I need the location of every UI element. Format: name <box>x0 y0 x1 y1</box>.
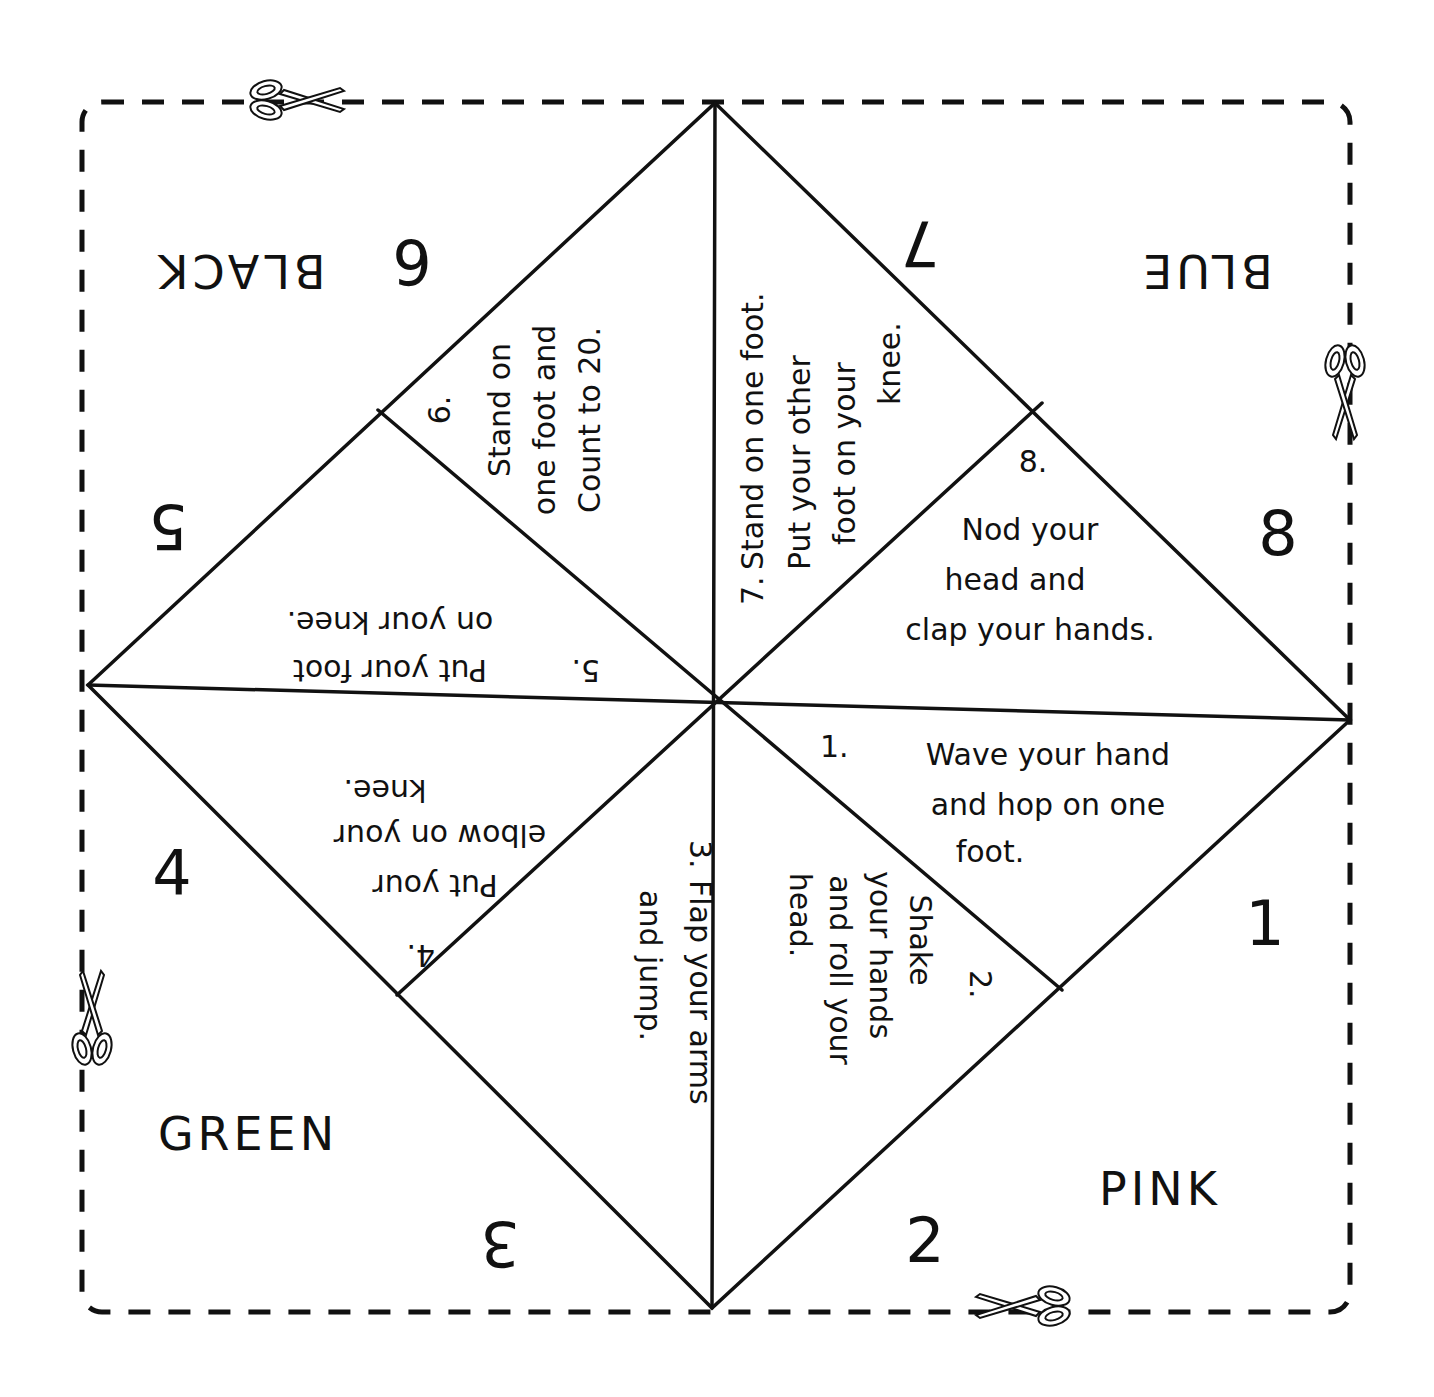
fortune-line: on your knee. <box>287 605 494 640</box>
fortune-number: 5. <box>571 653 600 688</box>
fortune-line: knee. <box>344 773 427 808</box>
fortune-6: 6. Stand on one foot and Count to 20. <box>422 325 607 515</box>
fortune-1: 1. Wave your hand and hop on one foot. <box>820 729 1170 869</box>
fortune-number: 2. <box>963 970 998 999</box>
fortune-line: head and <box>945 562 1086 597</box>
fortune-number: 8. <box>1019 444 1048 479</box>
fold-line-diag-b <box>397 403 1042 995</box>
fortune-5: 5. Put your foot on your knee. <box>287 605 600 688</box>
scissors-icon <box>69 971 115 1067</box>
fortune-line: Stand on <box>482 343 517 477</box>
fortune-number: 6. <box>422 396 457 425</box>
fortune-number: 4. <box>406 938 435 973</box>
fortune-number: 1. <box>820 729 849 764</box>
number-label-3: 3 <box>480 1207 519 1280</box>
fortune-line: and hop on one <box>931 787 1166 822</box>
fortune-line: and jump. <box>633 890 668 1041</box>
fold-line-horizontal <box>88 685 1350 720</box>
fortune-line: and roll your <box>823 875 858 1065</box>
fortune-line: Put your foot <box>293 653 487 688</box>
fortune-2: 2. Shake your hands and roll your head. <box>783 871 998 1066</box>
fortune-line: knee. <box>872 322 907 405</box>
number-label-5: 5 <box>148 490 187 563</box>
color-label-pink: PINK <box>1099 1162 1221 1216</box>
number-label-2: 2 <box>905 1204 944 1277</box>
fortune-number: 3. <box>683 840 718 869</box>
fortune-line: foot. <box>956 834 1025 869</box>
fortune-line: elbow on your <box>333 818 546 853</box>
fortune-line: Flap your arms <box>683 880 718 1105</box>
fortune-line: Nod your <box>962 512 1099 547</box>
number-label-1: 1 <box>1245 887 1284 960</box>
fortune-line: Count to 20. <box>572 327 607 513</box>
number-label-8: 8 <box>1258 497 1297 570</box>
number-label-7: 7 <box>900 207 939 280</box>
fortune-line: clap your hands. <box>905 612 1154 647</box>
fortune-line: Put your <box>372 868 498 903</box>
scissors-icon <box>976 1283 1072 1329</box>
fortune-line: Stand on one foot. <box>735 292 770 570</box>
color-label-black: BLACK <box>154 244 325 298</box>
fortune-line: Wave your hand <box>926 737 1170 772</box>
fortune-line: foot on your <box>827 361 862 545</box>
color-label-green: GREEN <box>158 1107 338 1161</box>
scissors-icon <box>248 77 344 123</box>
fortune-number: 7. <box>735 576 770 605</box>
fortune-line: head. <box>783 873 818 957</box>
scissors-icon <box>1322 343 1368 439</box>
fortune-7: 7. Stand on one foot. Put your other foo… <box>735 292 907 605</box>
fortune-4: 4. Put your elbow on your knee. <box>333 773 546 973</box>
number-label-4: 4 <box>152 837 191 910</box>
color-label-blue: BLUE <box>1139 244 1273 298</box>
fortune-line: Shake <box>903 894 938 985</box>
fortune-line: one foot and <box>527 325 562 515</box>
fortune-line: Put your other <box>782 355 817 570</box>
fortune-8: 8. Nod your head and clap your hands. <box>905 444 1154 647</box>
number-label-6: 6 <box>392 225 431 298</box>
fortune-teller-sheet: BLACK BLUE PINK GREEN 1 2 3 4 5 6 7 8 1.… <box>0 0 1434 1397</box>
fortune-line: your hands <box>863 871 898 1039</box>
fortune-3: 3. Flap your arms and jump. <box>633 840 718 1105</box>
